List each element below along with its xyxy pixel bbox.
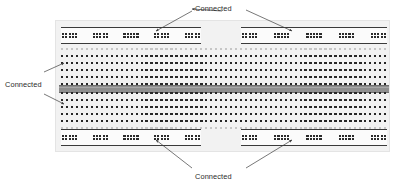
- breadboard-hole: [133, 138, 135, 140]
- breadboard-hole: [160, 99, 162, 101]
- breadboard-hole: [280, 76, 282, 78]
- breadboard-hole: [215, 106, 217, 108]
- breadboard-hole: [86, 92, 88, 94]
- breadboard-hole: [240, 55, 242, 57]
- breadboard-hole: [354, 113, 356, 115]
- breadboard-hole: [285, 62, 287, 64]
- breadboard-hole: [165, 92, 167, 94]
- breadboard-hole: [175, 99, 177, 101]
- breadboard-hole: [324, 76, 326, 78]
- power-rail-hole-row: [154, 36, 169, 38]
- breadboard-hole: [65, 33, 67, 35]
- breadboard-hole: [339, 69, 341, 71]
- breadboard-hole: [364, 113, 366, 115]
- breadboard-hole: [374, 55, 376, 57]
- breadboard-hole: [185, 113, 187, 115]
- breadboard-hole: [309, 55, 311, 57]
- breadboard-hole: [195, 106, 197, 108]
- breadboard-hole: [210, 62, 212, 64]
- breadboard-hole: [103, 33, 105, 35]
- breadboard-hole: [111, 48, 113, 50]
- power-rail-hole-group: [93, 33, 108, 38]
- breadboard-hole: [381, 135, 383, 137]
- breadboard-hole: [75, 33, 77, 35]
- power-rail-hole-group: [62, 135, 77, 140]
- breadboard-hole: [329, 92, 331, 94]
- breadboard-hole: [86, 106, 88, 108]
- breadboard-hole: [157, 36, 159, 38]
- breadboard-hole: [205, 99, 207, 101]
- breadboard-hole: [220, 120, 222, 122]
- breadboard-hole: [170, 113, 172, 115]
- breadboard-hole: [379, 106, 381, 108]
- breadboard-hole: [339, 33, 341, 35]
- breadboard-hole: [260, 120, 262, 122]
- breadboard-hole: [66, 120, 68, 122]
- breadboard-hole: [349, 76, 351, 78]
- breadboard-hole: [379, 62, 381, 64]
- breadboard-hole: [133, 135, 135, 137]
- breadboard-hole: [96, 92, 98, 94]
- breadboard-hole: [66, 106, 68, 108]
- breadboard-hole: [205, 127, 207, 129]
- breadboard-hole: [69, 138, 71, 140]
- power-rail-hole-group: [62, 33, 77, 38]
- breadboard-hole: [103, 36, 105, 38]
- breadboard-hole: [210, 113, 212, 115]
- breadboard-hole: [304, 106, 306, 108]
- breadboard-hole: [127, 135, 129, 137]
- breadboard-hole: [314, 48, 316, 50]
- breadboard-hole: [71, 69, 73, 71]
- breadboard-hole: [270, 99, 272, 101]
- breadboard-hole: [66, 76, 68, 78]
- breadboard-hole: [245, 106, 247, 108]
- breadboard-hole: [381, 138, 383, 140]
- breadboard-hole: [324, 113, 326, 115]
- breadboard-hole: [103, 138, 105, 140]
- breadboard-hole: [195, 55, 197, 57]
- breadboard-hole: [136, 62, 138, 64]
- breadboard-hole: [384, 106, 386, 108]
- breadboard-hole: [255, 33, 257, 35]
- breadboard-hole: [101, 92, 103, 94]
- breadboard-hole: [86, 62, 88, 64]
- breadboard-hole: [150, 55, 152, 57]
- power-rail-hole-row: [339, 33, 354, 35]
- breadboard-hole: [170, 69, 172, 71]
- breadboard-hole: [190, 113, 192, 115]
- breadboard-hole: [277, 33, 279, 35]
- breadboard-hole: [245, 55, 247, 57]
- breadboard-hole: [131, 99, 133, 101]
- breadboard-hole: [130, 138, 132, 140]
- breadboard-hole: [155, 120, 157, 122]
- terminal-hole-row: [61, 62, 387, 64]
- breadboard-hole: [290, 92, 292, 94]
- breadboard-hole: [339, 62, 341, 64]
- breadboard-hole: [215, 55, 217, 57]
- breadboard-hole: [230, 113, 232, 115]
- breadboard-hole: [235, 55, 237, 57]
- breadboard-hole: [304, 92, 306, 94]
- breadboard-hole: [76, 106, 78, 108]
- breadboard-hole: [344, 55, 346, 57]
- breadboard-hole: [225, 127, 227, 129]
- breadboard-hole: [200, 99, 202, 101]
- breadboard-hole: [285, 99, 287, 101]
- breadboard-hole: [381, 33, 383, 35]
- breadboard-hole: [126, 99, 128, 101]
- breadboard-hole: [348, 135, 350, 137]
- breadboard-hole: [230, 127, 232, 129]
- power-rail-hole-group: [242, 33, 257, 38]
- breadboard-hole: [344, 113, 346, 115]
- breadboard-hole: [155, 106, 157, 108]
- breadboard-hole: [164, 33, 166, 35]
- breadboard-hole: [252, 36, 254, 38]
- breadboard-hole: [240, 69, 242, 71]
- breadboard-hole: [255, 138, 257, 140]
- breadboard-hole: [364, 120, 366, 122]
- breadboard-hole: [310, 36, 312, 38]
- breadboard-hole: [61, 106, 63, 108]
- breadboard-hole: [75, 36, 77, 38]
- breadboard-hole: [345, 36, 347, 38]
- breadboard-hole: [61, 48, 63, 50]
